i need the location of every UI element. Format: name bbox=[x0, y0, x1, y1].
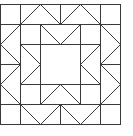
zigzag-triangle-edge bbox=[1, 25, 21, 45]
zigzag-triangle-edge bbox=[81, 5, 101, 25]
zigzag-triangle-edge bbox=[21, 5, 41, 25]
inner-star-point-edge bbox=[21, 45, 41, 65]
zigzag-triangle-edge bbox=[1, 85, 21, 105]
zigzag-triangle-edge bbox=[61, 5, 81, 25]
quilt-lines bbox=[1, 5, 121, 125]
zigzag-triangle-edge bbox=[21, 105, 41, 125]
inner-star-point-edge bbox=[41, 85, 61, 105]
zigzag-triangle-edge bbox=[1, 45, 21, 65]
quilt-block-diagram bbox=[0, 0, 133, 136]
inner-star-point-edge bbox=[81, 65, 101, 85]
inner-star-point-edge bbox=[61, 25, 81, 45]
zigzag-triangle-edge bbox=[61, 105, 81, 125]
zigzag-triangle-edge bbox=[41, 105, 61, 125]
zigzag-triangle-edge bbox=[81, 105, 101, 125]
inner-star-point-edge bbox=[81, 45, 101, 65]
zigzag-triangle-edge bbox=[101, 65, 121, 85]
inner-star-point-edge bbox=[61, 85, 81, 105]
zigzag-triangle-edge bbox=[41, 5, 61, 25]
zigzag-triangle-edge bbox=[1, 65, 21, 85]
zigzag-triangle-edge bbox=[101, 85, 121, 105]
zigzag-triangle-edge bbox=[101, 25, 121, 45]
zigzag-triangle-edge bbox=[101, 45, 121, 65]
inner-star-point-edge bbox=[21, 65, 41, 85]
inner-star-point-edge bbox=[41, 25, 61, 45]
